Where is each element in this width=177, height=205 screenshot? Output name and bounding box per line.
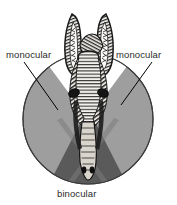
label-binocular: binocular bbox=[57, 188, 96, 199]
vision-diagram-svg bbox=[0, 0, 177, 205]
left-nostril bbox=[82, 167, 87, 174]
right-nostril bbox=[90, 167, 95, 174]
label-monocular-right: monocular bbox=[116, 49, 161, 60]
field-of-vision-figure: monocular monocular binocular bbox=[0, 0, 177, 205]
label-monocular-left: monocular bbox=[6, 49, 51, 60]
